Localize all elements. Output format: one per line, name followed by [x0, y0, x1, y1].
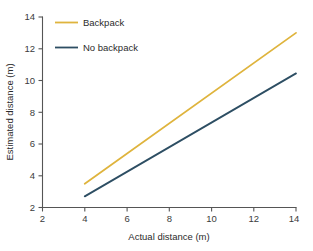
- legend-label-backpack: Backpack: [83, 17, 124, 28]
- x-tick-label: 4: [82, 213, 87, 224]
- y-tick-label: 4: [30, 170, 35, 181]
- x-tick-label: 8: [167, 213, 172, 224]
- x-tick-label: 6: [124, 213, 129, 224]
- y-tick-label: 10: [24, 75, 35, 86]
- x-tick-label: 2: [40, 213, 45, 224]
- legend-label-no-backpack: No backpack: [83, 42, 138, 53]
- chart-figure: 2 4 6 8 10 12 14 2 4 6 8 10 12 14 Actual…: [0, 0, 313, 251]
- x-axis-title: Actual distance (m): [128, 231, 209, 242]
- x-tick-label: 12: [249, 213, 260, 224]
- chart-background: [0, 0, 313, 251]
- y-tick-label: 2: [30, 202, 35, 213]
- y-axis-title: Estimated distance (m): [4, 63, 15, 160]
- y-tick-label: 12: [24, 43, 35, 54]
- y-tick-label: 6: [30, 138, 35, 149]
- x-tick-label: 14: [289, 213, 300, 224]
- line-chart: 2 4 6 8 10 12 14 2 4 6 8 10 12 14 Actual…: [0, 0, 313, 251]
- y-tick-label: 8: [30, 107, 35, 118]
- x-tick-label: 10: [206, 213, 217, 224]
- y-tick-label: 14: [24, 11, 35, 22]
